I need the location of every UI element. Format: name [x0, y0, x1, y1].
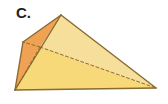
figure-label: C.	[16, 4, 31, 22]
figure-container: C.	[0, 0, 168, 104]
